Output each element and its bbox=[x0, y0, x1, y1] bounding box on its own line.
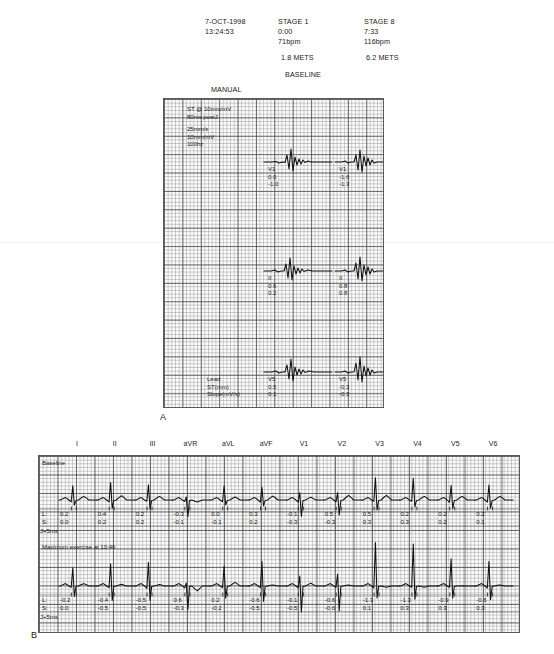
st-value: 0.6 bbox=[268, 283, 276, 289]
panel-b-row1-l-value-avr: -0.3 bbox=[174, 511, 184, 517]
panel-b-row2-l-label: L: bbox=[42, 597, 47, 603]
panel-a-row3-right: V5-0.3-0.3 bbox=[339, 376, 349, 399]
panel-b-row2-s-value-avf: -0.5 bbox=[249, 605, 259, 611]
panel-a-st-settings: ST @ 10mm/mV 80ms postJ bbox=[187, 106, 231, 121]
panel-a-scale-settings: 25mm/s 10mm/mV 100hz bbox=[187, 126, 214, 149]
panel-b-row1-l-value-i: 0.2 bbox=[60, 511, 68, 517]
panel-b-trace-v4 bbox=[400, 544, 438, 599]
stage8-name: STAGE 8 bbox=[364, 17, 395, 26]
panel-b-row2-l-value-v2: -0.6 bbox=[325, 597, 335, 603]
panel-b-row1-s-value-v1: -0.3 bbox=[287, 519, 297, 525]
panel-b-row2-l-value-avf: -0.6 bbox=[249, 597, 259, 603]
panel-b-lead-header-v4: V4 bbox=[413, 440, 422, 447]
panel-b-trace-avl bbox=[210, 566, 248, 598]
slope-value: -1.3 bbox=[339, 181, 349, 187]
panel-a-row1-left: V10.0-1.0 bbox=[268, 166, 278, 189]
panel-b-row1-l-value-v2: 0.5 bbox=[325, 511, 333, 517]
panel-b-trace-v5 bbox=[437, 559, 475, 598]
panel-b-row2-l-value-v3: -1.3 bbox=[363, 597, 373, 603]
panel-b-lead-header-ii: II bbox=[113, 440, 117, 447]
panel-b-row1-l-value-v5: 0.2 bbox=[438, 511, 446, 517]
panel-b-row2-s-value-v4: 0.3 bbox=[401, 605, 409, 611]
slope-value: -0.3 bbox=[339, 391, 349, 397]
st-value: 0.5 bbox=[268, 384, 276, 390]
baseline-label: BASELINE bbox=[285, 70, 321, 80]
panel-b-trace-v3 bbox=[362, 478, 400, 510]
st-value: -1.6 bbox=[339, 174, 349, 180]
panel-b-lead-header-avr: aVR bbox=[184, 440, 198, 447]
panel-b-row2-s-value-avl: -0.2 bbox=[211, 605, 221, 611]
panel-b-trace-avf bbox=[248, 487, 286, 506]
panel-b-row2-s-value-ii: -0.5 bbox=[98, 605, 108, 611]
panel-b-trace-v6 bbox=[475, 561, 513, 600]
panel-b-row2-s-value-v2: -0.6 bbox=[325, 605, 335, 611]
panel-b-trace-v6 bbox=[475, 485, 513, 508]
panel-b-row2-l-value-i: -0.2 bbox=[60, 597, 70, 603]
stage1-mets: 1.8 METS bbox=[281, 53, 314, 63]
slope-value: 0.2 bbox=[268, 290, 276, 296]
panel-b-row2-s-value-avr: -0.3 bbox=[174, 605, 184, 611]
panel-b-row1-s-value-i: 0.0 bbox=[60, 519, 68, 525]
panel-b-measure-tick bbox=[223, 507, 228, 510]
stage1-name: STAGE 1 bbox=[278, 17, 309, 26]
slope-value: -1.0 bbox=[268, 181, 278, 187]
panel-b-ecg-grid: BaselineL:S:J+5ms0.20.00.40.20.20.2-0.3-… bbox=[38, 455, 520, 633]
panel-b-row1-s-value-avr: -0.1 bbox=[174, 519, 184, 525]
panel-a-row1-right: V1-1.6-1.3 bbox=[339, 166, 349, 189]
panel-b-row1-s-label: S: bbox=[42, 519, 48, 525]
panel-b-trace-ii bbox=[97, 482, 135, 508]
panel-b-trace-v4 bbox=[400, 478, 438, 507]
panel-b-measure-tick bbox=[71, 507, 76, 510]
panel-b-row1-l-value-v6: 0.2 bbox=[476, 511, 484, 517]
stage1-hr: 71bpm bbox=[278, 37, 300, 46]
lead-name: V5 bbox=[339, 376, 346, 382]
panel-b-row1-annotation: Baseline bbox=[42, 460, 65, 466]
panel-b-lead-header-v6: V6 bbox=[489, 440, 498, 447]
panel-b-lead-header-avf: aVF bbox=[260, 440, 273, 447]
panel-b-lead-header-v5: V5 bbox=[451, 440, 460, 447]
header-datetime: 7-OCT-199813:24:53 bbox=[205, 17, 246, 37]
panel-b-row2-s-value-v5: 0.3 bbox=[438, 605, 446, 611]
panel-b-trace-v5 bbox=[437, 485, 475, 508]
panel-b-row1-l-value-v3: 0.5 bbox=[363, 511, 371, 517]
lead-name: II bbox=[339, 275, 342, 281]
panel-b-row2-s-value-v1: -0.5 bbox=[287, 605, 297, 611]
panel-b-lead-header-v3: V3 bbox=[375, 440, 384, 447]
header-stage1: STAGE 10:0071bpm bbox=[278, 17, 309, 48]
panel-b-row1-s-value-ii: 0.2 bbox=[98, 519, 106, 525]
panel-b-row2-s-value-i: 0.0 bbox=[60, 605, 68, 611]
panel-b-row1-l-value-avl: 0.0 bbox=[211, 511, 219, 517]
panel-b-row1-s-value-v3: 0.3 bbox=[363, 519, 371, 525]
panel-b-lead-header-i: I bbox=[76, 440, 78, 447]
stage8-mets: 6.2 METS bbox=[366, 53, 399, 63]
panel-b-row2-l-value-v1: -0.1 bbox=[287, 597, 297, 603]
panel-b-row1-l-value-iii: 0.2 bbox=[136, 511, 144, 517]
panel-b-row1-l-value-v1: -0.1 bbox=[287, 511, 297, 517]
panel-b-row1-l-value-avf: 0.3 bbox=[249, 511, 257, 517]
panel-b-row2-l-value-iii: -0.5 bbox=[136, 597, 146, 603]
stage8-elapsed: 7:33 bbox=[364, 27, 378, 36]
panel-b-row2-s-value-v3: 0.1 bbox=[363, 605, 371, 611]
lead-name: V1 bbox=[268, 166, 275, 172]
panel-b-row2-l-value-v5: -0.9 bbox=[438, 597, 448, 603]
panel-b-row1-l-label: L: bbox=[42, 511, 47, 517]
panel-a-measure-labels: Lead ST(mm) Slope(mV/s) bbox=[207, 376, 240, 399]
panel-b-label: B bbox=[31, 630, 37, 640]
panel-b-row1-s-value-avl: -0.1 bbox=[211, 519, 221, 525]
lead-name: II bbox=[268, 275, 271, 281]
header-date: 7-OCT-1998 bbox=[205, 17, 246, 26]
panel-b-row2-s-label: S: bbox=[42, 605, 48, 611]
panel-b-row1-s-value-v6: 0.1 bbox=[476, 519, 484, 525]
stage8-hr: 116bpm bbox=[364, 37, 390, 46]
panel-b-lead-header-iii: III bbox=[150, 440, 156, 447]
panel-b-row1-s-value-avf: 0.2 bbox=[249, 519, 257, 525]
panel-b-row2-l-value-v6: -0.6 bbox=[476, 597, 486, 603]
panel-b-row1-s-value-iii: 0.2 bbox=[136, 519, 144, 525]
slope-value: 0.1 bbox=[268, 391, 276, 397]
panel-b-lead-header-v2: V2 bbox=[337, 440, 346, 447]
panel-a-ecg-grid: ST @ 10mm/mV 80ms postJ 25mm/s 10mm/mV 1… bbox=[163, 98, 384, 408]
panel-b-trace-i bbox=[59, 486, 97, 505]
panel-a-row2-left: II0.60.2 bbox=[268, 275, 276, 298]
panel-b-row1-l-value-ii: 0.4 bbox=[98, 511, 106, 517]
panel-b-row2-l-value-avl: 0.2 bbox=[211, 597, 219, 603]
